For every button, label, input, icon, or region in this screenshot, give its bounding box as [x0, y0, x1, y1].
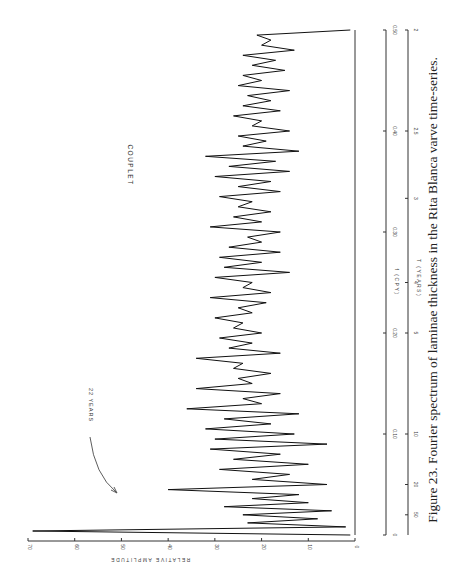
period-tick-label: 2 [413, 29, 419, 32]
annotation-arrow [90, 437, 116, 492]
figure-caption: Figure 23. Fourier spectrum of laminae t… [425, 57, 440, 523]
period-tick-label: 10 [413, 431, 419, 437]
frequency-tick-label: 0.50 [392, 25, 398, 35]
amplitude-tick-label: 40 [167, 544, 173, 550]
amplitude-axis-title: RELATIVE AMPLITUDE [110, 557, 191, 563]
frequency-tick-label: 0.20 [392, 328, 398, 338]
period-tick-label: 2.5 [413, 128, 419, 135]
frequency-axis-title: f (CPY) [394, 269, 400, 296]
period-tick-label: 50 [413, 512, 419, 518]
amplitude-tick-label: 10 [307, 544, 313, 550]
period-axis-title: T (YEARS) [416, 259, 422, 297]
frequency-tick-label: 0 [392, 534, 398, 537]
frequency-tick-label: 0.30 [392, 227, 398, 237]
annotation-22-years: 22 YEARS [88, 388, 94, 422]
amplitude-tick-label: 20 [261, 544, 267, 550]
frequency-tick-label: 0.10 [392, 429, 398, 439]
period-tick-label: 5 [413, 332, 419, 335]
fourier-spectrum-chart: 010203040506070 RELATIVE AMPLITUDE 00.10… [0, 0, 449, 579]
amplitude-tick-label: 0 [354, 546, 360, 549]
amplitude-tick-label: 50 [120, 544, 126, 550]
amplitude-tick-label: 60 [74, 544, 80, 550]
amplitude-tick-label: 30 [214, 544, 220, 550]
period-tick-label: 3 [413, 197, 419, 200]
spectrum-line [33, 30, 351, 535]
period-tick-label: 20 [413, 482, 419, 488]
series-label: COUPLET [127, 144, 134, 185]
frequency-tick-label: 0.40 [392, 126, 398, 136]
amplitude-tick-label: 70 [27, 544, 33, 550]
amplitude-axis-ticks: 010203040506070 [27, 538, 360, 550]
